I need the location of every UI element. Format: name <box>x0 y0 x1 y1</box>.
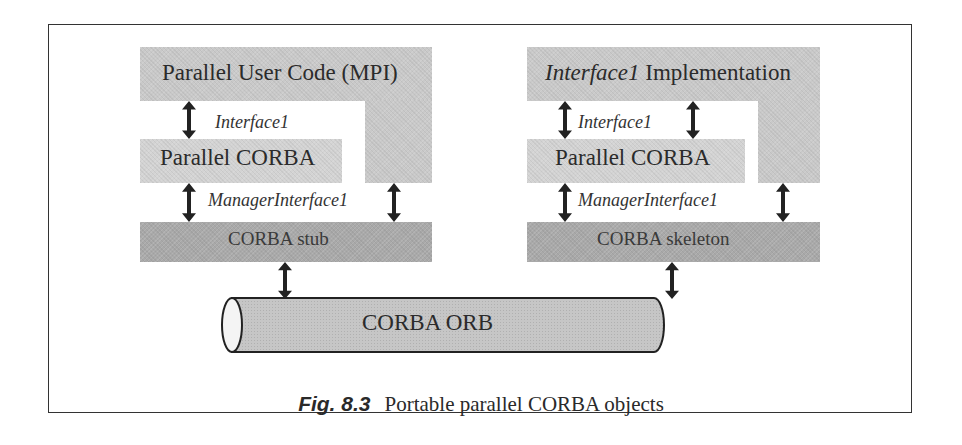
double-arrow-icon <box>558 101 572 139</box>
double-arrow-icon <box>278 262 292 299</box>
implementation-interface-name: Interface1 <box>545 60 640 85</box>
left-interface-label: Interface1 <box>215 112 289 133</box>
left-user-code-label: Parallel User Code (MPI) <box>162 60 398 86</box>
figure-caption: Fig. 8.3Portable parallel CORBA objects <box>0 392 962 417</box>
figure-number: Fig. 8.3 <box>298 392 370 415</box>
double-arrow-icon <box>686 101 700 139</box>
left-parallel-corba-label: Parallel CORBA <box>160 145 315 171</box>
right-manager-interface-label: ManagerInterface1 <box>578 190 718 211</box>
caption-text: Portable parallel CORBA objects <box>384 392 663 416</box>
right-interface-label: Interface1 <box>578 112 652 133</box>
left-user-code-block-leg <box>365 100 432 183</box>
double-arrow-icon <box>776 183 790 222</box>
corba-orb-label: CORBA ORB <box>362 310 493 336</box>
double-arrow-icon <box>665 262 679 299</box>
double-arrow-icon <box>387 183 401 222</box>
double-arrow-icon <box>182 183 196 222</box>
implementation-suffix: Implementation <box>640 60 791 85</box>
corba-skeleton-label: CORBA skeleton <box>597 228 729 250</box>
left-manager-interface-label: ManagerInterface1 <box>208 190 348 211</box>
double-arrow-icon <box>182 101 196 139</box>
right-parallel-corba-label: Parallel CORBA <box>555 145 710 171</box>
right-implementation-label: Interface1 Implementation <box>545 60 791 86</box>
corba-stub-label: CORBA stub <box>228 228 329 250</box>
right-implementation-block-leg <box>758 100 820 183</box>
double-arrow-icon <box>558 183 572 222</box>
